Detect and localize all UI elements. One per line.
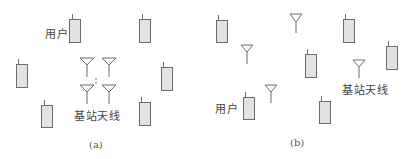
base-station-antenna-label-b: 基站天线 xyxy=(342,85,388,97)
diagram-canvas xyxy=(0,0,411,159)
antenna-icon xyxy=(102,85,116,104)
user-terminal-icon xyxy=(320,96,331,124)
user-terminal-icon xyxy=(70,14,81,43)
ellipsis-dot xyxy=(95,78,97,80)
antenna-icon xyxy=(265,85,277,103)
user-terminal-icon xyxy=(244,92,255,120)
user-terminal-icon xyxy=(344,14,355,43)
user-terminal-icon xyxy=(17,59,28,88)
user-label-a: 用户 xyxy=(45,29,68,41)
user-terminal-icon xyxy=(306,49,317,78)
antenna-icon xyxy=(102,58,116,77)
antenna-icon xyxy=(353,60,365,78)
panel-caption-a: (a) xyxy=(89,139,103,151)
user-label-b: 用户 xyxy=(215,104,238,116)
user-terminal-icon xyxy=(162,62,173,91)
antenna-icon xyxy=(241,45,253,64)
user-terminal-icon xyxy=(140,14,151,43)
user-terminal-icon xyxy=(140,97,151,126)
base-station-antenna-label-a: 基站天线 xyxy=(74,111,120,123)
panel-b xyxy=(217,14,398,124)
user-terminal-icon xyxy=(42,100,53,128)
ellipsis-dot xyxy=(95,82,97,84)
antenna-icon xyxy=(80,58,94,77)
antenna-icon xyxy=(80,85,94,104)
user-terminal-icon xyxy=(387,41,398,70)
user-terminal-icon xyxy=(217,15,228,43)
panel-caption-b: (b) xyxy=(290,137,304,149)
antenna-icon xyxy=(290,14,302,33)
